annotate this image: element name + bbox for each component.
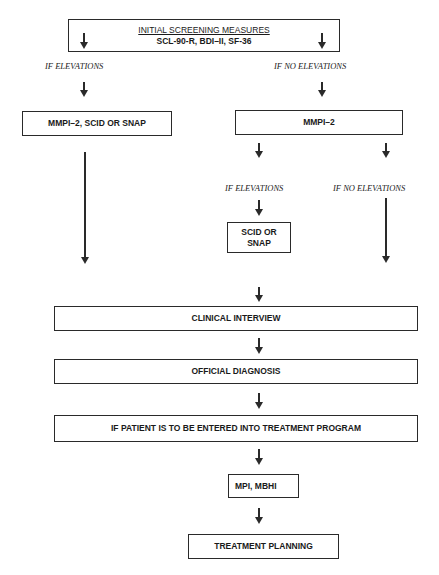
edge-label-if-elevations: IF ELEVATIONS — [225, 183, 283, 193]
arrow-down-icon — [254, 338, 264, 355]
official-diagnosis-label: OFFICIAL DIAGNOSIS — [191, 366, 280, 377]
mpi-mbhi-label: MPI, MBHI — [235, 481, 277, 492]
scid-snap-box: SCID OR SNAP — [227, 222, 291, 253]
arrow-down-icon — [254, 287, 264, 303]
arrow-down-icon — [381, 198, 391, 265]
scid-snap-label-line1: SCID OR — [241, 227, 276, 238]
arrow-down-icon — [79, 33, 89, 49]
mmpi2-box: MMPI–2 — [235, 110, 403, 135]
initial-screening-measures: SCL-90-R, BDI–II, SF-36 — [157, 36, 252, 47]
official-diagnosis-box: OFFICIAL DIAGNOSIS — [54, 359, 418, 384]
clinical-interview-box: CLINICAL INTERVIEW — [54, 306, 418, 331]
arrow-down-icon — [317, 82, 327, 98]
mmpi2-scid-snap-label: MMPI–2, SCID OR SNAP — [48, 118, 146, 129]
mmpi2-label: MMPI–2 — [303, 117, 335, 128]
treatment-program-label: IF PATIENT IS TO BE ENTERED INTO TREATME… — [111, 423, 361, 434]
clinical-interview-label: CLINICAL INTERVIEW — [192, 313, 281, 324]
initial-screening-title: INITIAL SCREENING MEASURES — [138, 25, 269, 36]
treatment-planning-box: TREATMENT PLANNING — [188, 534, 339, 559]
arrow-down-icon — [254, 200, 264, 217]
treatment-program-box: IF PATIENT IS TO BE ENTERED INTO TREATME… — [54, 415, 418, 442]
edge-label-if-elevations: IF ELEVATIONS — [45, 61, 103, 71]
arrow-down-icon — [254, 143, 264, 159]
arrow-down-icon — [254, 508, 264, 525]
arrow-down-icon — [79, 82, 89, 98]
arrow-down-icon — [254, 393, 264, 410]
mmpi2-scid-snap-box: MMPI–2, SCID OR SNAP — [22, 111, 172, 136]
mpi-mbhi-box: MPI, MBHI — [228, 474, 299, 498]
arrow-down-icon — [254, 449, 264, 466]
edge-label-if-no-elevations: IF NO ELEVATIONS — [274, 61, 346, 71]
arrow-down-icon — [317, 33, 327, 49]
initial-screening-box: INITIAL SCREENING MEASURES SCL-90-R, BDI… — [68, 19, 340, 52]
arrow-down-icon — [381, 143, 391, 159]
arrow-down-icon — [80, 152, 90, 266]
treatment-planning-label: TREATMENT PLANNING — [214, 541, 313, 552]
edge-label-if-no-elevations: IF NO ELEVATIONS — [333, 183, 405, 193]
scid-snap-label-line2: SNAP — [247, 238, 271, 249]
